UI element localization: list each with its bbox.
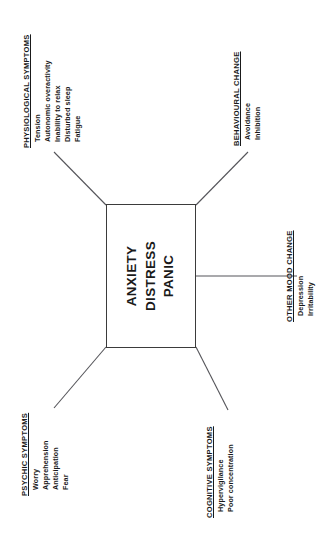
- list-item: Fear: [61, 413, 71, 490]
- group-title-cognitive-symptoms: COGNITIVE SYMPTOMS: [205, 426, 214, 518]
- list-item: Fatigue: [73, 34, 83, 142]
- connector-behavioural: [196, 152, 248, 205]
- diagram-canvas: ANXIETY DISTRESS PANIC PHYSIOLOGICAL SYM…: [0, 0, 336, 558]
- group-items-behavioural-change: Avoidance Inhibition: [243, 51, 263, 140]
- list-item: Tension: [33, 34, 43, 142]
- list-item: Poor concentration: [226, 426, 236, 512]
- group-other-mood-change: OTHER MOOD CHANGE Depression Irritabilit…: [285, 230, 316, 322]
- list-item: Inability to relax: [53, 34, 63, 142]
- connector-physiological: [54, 152, 106, 205]
- list-item: Irritability: [306, 230, 316, 316]
- group-behavioural-change: BEHAVIOURAL CHANGE Avoidance Inhibition: [232, 51, 263, 146]
- list-item: Anticipation: [51, 413, 61, 490]
- group-items-physiological-symptoms: Tension Autonomic overactivity Inability…: [33, 34, 84, 142]
- list-item: Depression: [296, 230, 306, 316]
- group-items-cognitive-symptoms: Hypervigilance Poor concentration: [216, 426, 236, 512]
- list-item: Hypervigilance: [216, 426, 226, 512]
- center-line-panic: PANIC: [160, 241, 179, 311]
- group-items-psychic-symptoms: Worry Apprehension Anticipation Fear: [31, 413, 72, 490]
- list-item: Inhibition: [253, 51, 263, 140]
- list-item: Apprehension: [41, 413, 51, 490]
- connector-psychic: [54, 347, 106, 408]
- group-physiological-symptoms: PHYSIOLOGICAL SYMPTOMS Tension Autonomic…: [22, 34, 84, 148]
- group-title-psychic-symptoms: PSYCHIC SYMPTOMS: [20, 413, 29, 496]
- list-item: Avoidance: [243, 51, 253, 140]
- list-item: Worry: [31, 413, 41, 490]
- group-title-other-mood-change: OTHER MOOD CHANGE: [285, 230, 294, 322]
- connector-cognitive: [196, 347, 228, 410]
- list-item: Autonomic overactivity: [43, 34, 53, 142]
- group-items-other-mood-change: Depression Irritability: [296, 230, 316, 316]
- group-title-physiological-symptoms: PHYSIOLOGICAL SYMPTOMS: [22, 34, 31, 148]
- center-box-label: ANXIETY DISTRESS PANIC: [123, 241, 179, 311]
- list-item: Disturbed sleep: [63, 34, 73, 142]
- group-psychic-symptoms: PSYCHIC SYMPTOMS Worry Apprehension Anti…: [20, 413, 71, 496]
- group-title-behavioural-change: BEHAVIOURAL CHANGE: [232, 51, 241, 146]
- group-cognitive-symptoms: COGNITIVE SYMPTOMS Hypervigilance Poor c…: [205, 426, 236, 518]
- center-box: ANXIETY DISTRESS PANIC: [106, 204, 196, 348]
- center-line-distress: DISTRESS: [142, 241, 161, 311]
- center-line-anxiety: ANXIETY: [123, 241, 142, 311]
